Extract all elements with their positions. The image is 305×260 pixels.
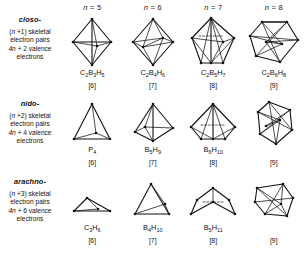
row-label-nido: nido- (n +2) skeletal electron pairs 4n … — [0, 100, 60, 146]
row-line3-closo: 4n + 2 valence — [0, 45, 60, 54]
row-cells-arachno: C3H6 [6] B4H10 [7] — [62, 178, 304, 254]
cell-nido-n6: B5H9 [7] — [123, 100, 184, 170]
formula-nido-n5: P4 — [88, 145, 96, 156]
formula-arachno-n5: C3H6 — [84, 223, 101, 234]
cell-closo-n8: C2B6H8 [9] — [244, 16, 305, 92]
formula-closo-n8: C2B6H8 — [261, 68, 286, 79]
refnum-closo-n8: [9] — [270, 81, 278, 91]
figure-canvas: n = 5 n = 6 n = 7 n = 8 closo- (n +1) sk… — [0, 0, 304, 260]
dodecahedron-icon — [244, 16, 305, 68]
row-class-name-closo: closo- — [0, 16, 60, 25]
cell-arachno-n8: [9] — [244, 178, 305, 254]
row-line4-nido: electrons — [0, 137, 60, 146]
column-header-n6: n = 6 — [123, 2, 184, 16]
row-cells-nido: P4 [6] — [62, 100, 304, 170]
formula-arachno-n7: B5H11 — [204, 223, 223, 234]
column-header-n8: n = 8 — [244, 2, 305, 16]
cell-closo-n7: C2B5H7 [8] — [183, 16, 244, 92]
row-line1-closo: (n +1) skeletal — [0, 28, 60, 37]
row-closo: closo- (n +1) skeletal electron pairs 4n… — [0, 16, 304, 92]
row-line4-closo: electrons — [0, 53, 60, 62]
nido-dodecahedron-icon — [244, 100, 305, 145]
row-label-arachno: arachno- (n +3) skeletal electron pairs … — [0, 178, 60, 224]
row-line2-closo: electron pairs — [0, 36, 60, 45]
column-header-n7-value: = 7 — [209, 3, 223, 12]
row-line1-arachno: (n +3) skeletal — [0, 190, 60, 199]
column-header-n6-value: = 6 — [148, 3, 162, 12]
cell-closo-n6: C2B4H6 [7] — [123, 16, 184, 92]
pentagonal-pyramid-icon — [183, 100, 244, 145]
formula-arachno-n6: B4H10 — [143, 223, 162, 234]
cell-nido-n5: P4 [6] — [62, 100, 123, 170]
column-header-n8-value: = 8 — [269, 3, 283, 12]
refnum-nido-n7: [8] — [209, 158, 217, 168]
refnum-arachno-n7: [8] — [209, 236, 217, 246]
trigonal-bipyramid-icon — [62, 16, 123, 68]
flat-butterfly-icon — [62, 178, 123, 223]
square-pyramid-icon — [123, 100, 184, 145]
row-line2-arachno: electron pairs — [0, 198, 60, 207]
refnum-nido-n5: [6] — [88, 158, 96, 168]
refnum-closo-n6: [7] — [149, 81, 157, 91]
row-label-closo: closo- (n +1) skeletal electron pairs 4n… — [0, 16, 60, 62]
row-cells-closo: C2B3H5 [6] — [62, 16, 304, 92]
row-nido: nido- (n +2) skeletal electron pairs 4n … — [0, 100, 304, 170]
cell-closo-n5: C2B3H5 [6] — [62, 16, 123, 92]
refnum-arachno-n6: [7] — [149, 236, 157, 246]
formula-closo-n7: C2B5H7 — [201, 68, 226, 79]
row-class-name-arachno: arachno- — [0, 178, 60, 187]
refnum-arachno-n5: [6] — [88, 236, 96, 246]
refnum-closo-n5: [6] — [88, 81, 96, 91]
formula-nido-n7: B6H10 — [204, 145, 223, 156]
column-header-n5: n = 5 — [62, 2, 123, 16]
pentagonal-butterfly-icon — [183, 178, 244, 223]
arachno-dodecahedron-icon — [244, 178, 305, 223]
refnum-nido-n6: [7] — [149, 158, 157, 168]
row-class-name-nido: nido- — [0, 100, 60, 109]
row-line3-arachno: 4n + 6 valence — [0, 207, 60, 216]
refnum-closo-n7: [8] — [209, 81, 217, 91]
refnum-nido-n8: [9] — [270, 158, 278, 168]
tetrahedron-icon — [62, 100, 123, 145]
octahedron-icon — [123, 16, 184, 68]
column-headers: n = 5 n = 6 n = 7 n = 8 — [62, 2, 304, 16]
formula-closo-n5: C2B3H5 — [80, 68, 105, 79]
column-header-n5-value: = 5 — [88, 3, 102, 12]
row-line4-arachno: electrons — [0, 215, 60, 224]
cell-nido-n7: B6H10 [8] — [183, 100, 244, 170]
row-line1-nido: (n +2) skeletal — [0, 112, 60, 121]
row-line2-nido: electron pairs — [0, 120, 60, 129]
cell-arachno-n6: B4H10 [7] — [123, 178, 184, 254]
cell-arachno-n7: B5H11 [8] — [183, 178, 244, 254]
cell-arachno-n5: C3H6 [6] — [62, 178, 123, 254]
column-header-n7: n = 7 — [183, 2, 244, 16]
butterfly-icon — [123, 178, 184, 223]
formula-nido-n6: B5H9 — [145, 145, 161, 156]
refnum-arachno-n8: [9] — [270, 236, 278, 246]
cell-nido-n8: [9] — [244, 100, 305, 170]
row-arachno: arachno- (n +3) skeletal electron pairs … — [0, 178, 304, 254]
row-line3-nido: 4n + 4 valence — [0, 129, 60, 138]
formula-closo-n6: C2B4H6 — [140, 68, 165, 79]
pentagonal-bipyramid-icon — [183, 16, 244, 68]
